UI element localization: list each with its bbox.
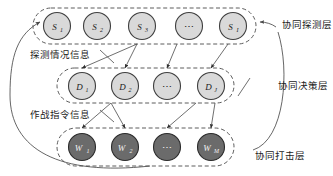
node-d-ellipsis: ⋯ (154, 73, 181, 100)
decision-label-tick (238, 78, 250, 96)
node-s3-base: S (137, 22, 142, 32)
node-s2-sub: 2 (100, 27, 103, 33)
node-w-ellipsis: ⋯ (154, 134, 181, 161)
node-si[interactable]: S I (220, 13, 247, 40)
layer-label-detection: 协同探测层 (282, 20, 332, 30)
arrows-decision-to-strike (82, 103, 215, 128)
node-s-ellipsis-base: ⋯ (184, 21, 195, 32)
node-w2-sub: 2 (130, 148, 133, 154)
node-dj-sub: J (214, 87, 217, 93)
arrows-detection-to-decision (82, 44, 228, 68)
flow-label-command-info: 作战指令信息 (30, 110, 90, 120)
node-d1-sub: 1 (86, 87, 89, 93)
node-d1[interactable]: D 1 (69, 73, 96, 100)
node-s3[interactable]: S 3 (129, 13, 156, 40)
node-d2-sub: 2 (129, 87, 132, 93)
layer-label-decision: 协同决策层 (278, 81, 328, 91)
flow-label-detection-info: 探测情况信息 (30, 50, 90, 60)
node-s2[interactable]: S 2 (84, 13, 111, 40)
node-w1-sub: 1 (87, 148, 90, 154)
node-w-ellipsis-base: ⋯ (162, 142, 173, 153)
layer-label-strike: 协同打击层 (255, 151, 305, 161)
node-s1[interactable]: S 1 (44, 13, 71, 40)
node-dj[interactable]: D J (198, 73, 225, 100)
command-info-tick (100, 110, 114, 122)
node-si-base: S (228, 22, 233, 32)
node-d2[interactable]: D 2 (112, 73, 139, 100)
node-w1[interactable]: W 1 (69, 134, 96, 161)
node-s1-base: S (52, 22, 57, 32)
detection-label-pointer (260, 22, 276, 27)
right-side-link-curve (253, 32, 284, 150)
node-s-ellipsis: ⋯ (176, 13, 203, 40)
node-s1-sub: 1 (60, 27, 63, 33)
diagram-canvas: S 1 S 2 S 3 ⋯ S I D 1 D (0, 0, 333, 176)
node-dj-base: D (204, 82, 212, 92)
node-w2[interactable]: W 2 (112, 134, 139, 161)
node-d1-base: D (75, 82, 83, 92)
node-s3-sub: 3 (144, 27, 148, 33)
detection-info-tick (100, 50, 114, 63)
node-d2-base: D (118, 82, 126, 92)
node-s2-base: S (92, 22, 97, 32)
node-wm-sub: M (213, 148, 220, 154)
node-d-ellipsis-base: ⋯ (162, 81, 173, 92)
node-wm[interactable]: W M (198, 134, 225, 161)
